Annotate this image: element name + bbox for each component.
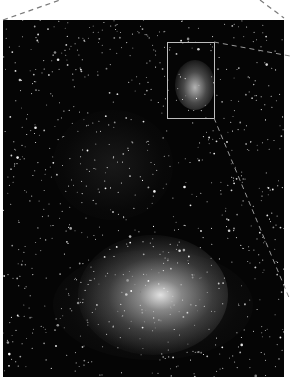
connector-lines — [0, 0, 292, 377]
